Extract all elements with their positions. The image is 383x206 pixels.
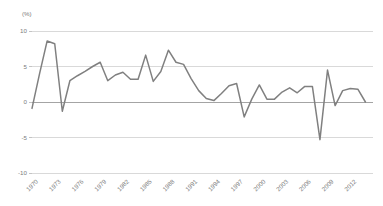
x-tick-label: 1988 <box>161 177 176 192</box>
x-tick-label: 1973 <box>47 177 62 192</box>
y-tick-marks <box>29 31 32 173</box>
y-tick-label: -10 <box>18 169 28 176</box>
x-tick-label: 2009 <box>320 177 335 192</box>
x-tick-label: 2000 <box>252 177 267 192</box>
x-tick-label: 1985 <box>138 177 153 192</box>
y-tick-label: 5 <box>24 63 28 70</box>
y-tick-label: -5 <box>21 134 27 141</box>
y-axis-unit-label: (%) <box>22 10 32 17</box>
gridlines <box>32 31 373 173</box>
x-tick-label: 2006 <box>297 177 312 192</box>
x-axis-tick-labels: 1970197319761979198219851988199119941997… <box>25 177 358 192</box>
x-tick-label: 1970 <box>25 177 40 192</box>
y-tick-label: 10 <box>20 27 27 34</box>
series-lines <box>32 41 365 140</box>
x-tick-label: 2003 <box>275 177 290 192</box>
x-tick-label: 1982 <box>115 177 130 192</box>
y-tick-label: 0 <box>24 98 28 105</box>
x-tick-label: 2012 <box>343 177 358 192</box>
x-tick-label: 1976 <box>70 177 85 192</box>
x-tick-label: 1991 <box>184 177 199 192</box>
x-tick-label: 1994 <box>206 177 221 192</box>
y-axis-tick-labels: 1050-5-10 <box>18 27 28 176</box>
x-tick-label: 1979 <box>93 177 108 192</box>
chart-container: 1050-5-10 197019731976197919821985198819… <box>0 0 383 206</box>
series-line-growth-rate <box>32 41 365 140</box>
x-tick-label: 1997 <box>229 177 244 192</box>
line-chart: 1050-5-10 197019731976197919821985198819… <box>0 0 383 206</box>
